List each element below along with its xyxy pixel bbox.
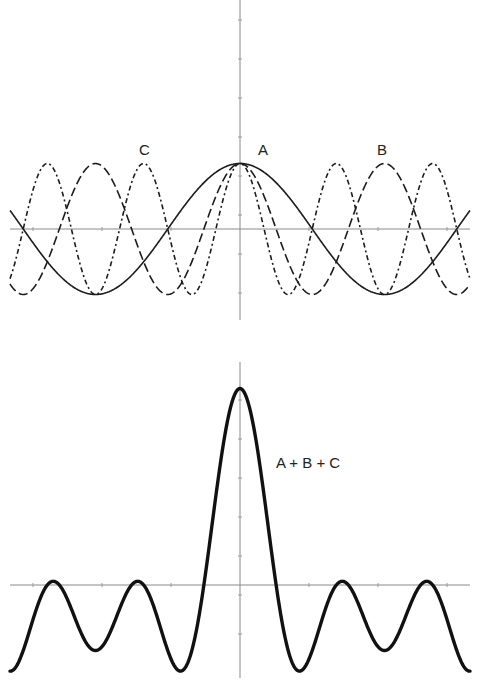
figure: C A B A + B + C (0, 0, 479, 682)
label-sum: A + B + C (276, 454, 340, 471)
label-a: A (258, 141, 268, 158)
label-c: C (139, 141, 150, 158)
top-chart: C A B (10, 0, 470, 320)
bottom-chart: A + B + C (10, 362, 470, 678)
label-b: B (377, 141, 387, 158)
